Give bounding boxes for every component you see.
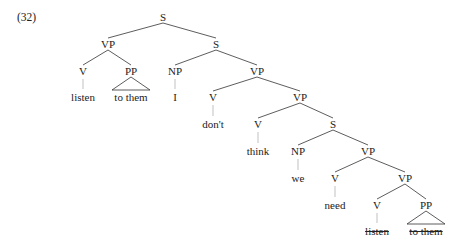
tree-node-label: VP	[361, 145, 375, 157]
branch-line	[213, 77, 257, 91]
tree-word: don't	[202, 118, 224, 130]
triangle-icon	[112, 77, 150, 90]
branch-line	[368, 157, 405, 172]
branch-line	[333, 130, 368, 145]
branch-line	[108, 50, 131, 65]
branch-line	[257, 77, 300, 91]
tree-node-label: VP	[101, 38, 115, 50]
branch-line	[175, 50, 216, 65]
branch-line	[300, 103, 333, 118]
tree-branches	[0, 0, 456, 248]
deleted-word: to them	[409, 225, 442, 237]
tree-node-label: NP	[168, 65, 182, 77]
tree-node-label: V	[331, 172, 339, 184]
branch-line	[298, 130, 333, 145]
tree-node-label: PP	[420, 199, 432, 211]
branch-line	[258, 103, 300, 118]
tree-word: we	[292, 172, 305, 184]
tree-node-label: S	[330, 118, 336, 130]
branch-line	[163, 23, 216, 38]
branch-line	[216, 50, 257, 65]
tree-node-label: V	[373, 199, 381, 211]
tree-node-label: V	[79, 65, 87, 77]
tree-node-label: S	[213, 38, 219, 50]
deleted-word: listen	[365, 225, 389, 237]
tree-word: think	[247, 145, 270, 157]
branch-line	[405, 184, 426, 199]
branch-line	[377, 184, 405, 199]
branch-line	[83, 50, 108, 65]
tree-node-label: VP	[293, 91, 307, 103]
tree-word: to them	[114, 91, 147, 103]
tree-node-label: VP	[250, 65, 264, 77]
tree-node-label: V	[254, 118, 262, 130]
triangle-icon	[407, 211, 445, 224]
branch-line	[108, 23, 163, 38]
tree-node-label: S	[160, 11, 166, 23]
branch-line	[335, 157, 368, 172]
tree-word: I	[173, 91, 177, 103]
tree-node-label: NP	[291, 145, 305, 157]
tree-node-label: V	[209, 91, 217, 103]
tree-word: listen	[71, 91, 95, 103]
tree-node-label: PP	[125, 65, 137, 77]
tree-node-label: VP	[398, 172, 412, 184]
tree-word: need	[325, 199, 346, 211]
